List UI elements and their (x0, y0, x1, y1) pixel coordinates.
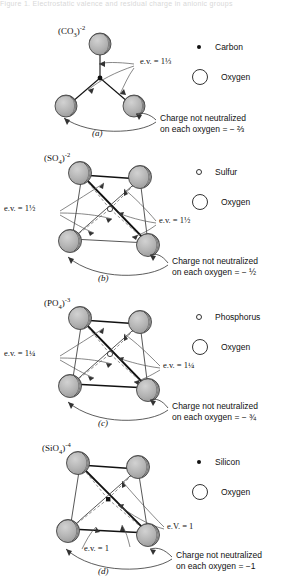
formula-b: (SO4)-2 (44, 151, 70, 165)
central-atom-sulfur (107, 206, 112, 211)
legend-label-oxygen-d: Oxygen (218, 487, 250, 497)
ev-leaders-c-left (60, 328, 112, 378)
formula-a: (CO3)-2 (58, 24, 85, 38)
oxygen-marker-icon (186, 69, 218, 85)
legend-label-carbon: Carbon (212, 42, 243, 52)
ev-leaders-b-left (60, 183, 112, 233)
callout-c-line1: Charge not neutralized (172, 401, 258, 411)
formula-d-sup: -4 (65, 441, 70, 448)
callout-arrowheads-c (68, 400, 156, 409)
legend-label-sulfur: Sulfur (212, 167, 237, 177)
legend-row-oxygen-b: Oxygen (186, 191, 250, 213)
carbon-marker-icon (186, 45, 212, 49)
legend-b: Sulfur Oxygen (186, 161, 250, 213)
legend-c: Phosphorus Oxygen (186, 306, 260, 358)
legend-row-sulfur: Sulfur (186, 161, 250, 183)
silicon-marker-icon (186, 460, 212, 464)
panel-label-c: (c) (98, 418, 108, 428)
ev-arrowheads-a (88, 61, 126, 95)
ev-leaders-b-right (118, 189, 156, 237)
ev-label-b-right: e.v. = 1½ (159, 215, 190, 225)
oxygen-marker-icon-b (186, 194, 218, 210)
ev-label-a-1: e.v. = 1⅓ (140, 56, 171, 66)
callout-d-line1: Charge not neutralized (176, 550, 262, 560)
callout-b: Charge not neutralized on each oxygen = … (172, 256, 258, 278)
legend-a: Carbon Oxygen (186, 36, 250, 88)
panel-c: (PO4)-3 e.v. = 1¼ e.v. = 1¼ Phosphorus O… (0, 284, 288, 429)
callout-a-line2: on each oxygen = − ⅔ (160, 124, 246, 135)
panel-label-a: (a) (92, 128, 103, 138)
formula-d-base: (SiO (42, 443, 59, 453)
sulfur-marker-icon (186, 169, 212, 176)
callout-arrows-d (66, 548, 172, 569)
legend-label-oxygen-c: Oxygen (218, 342, 250, 352)
formula-d: (SiO4)-4 (42, 441, 71, 455)
callout-d: Charge not neutralized on each oxygen = … (176, 550, 262, 572)
central-atom-phosphorus (107, 351, 112, 356)
legend-row-oxygen-c: Oxygen (186, 336, 260, 358)
panel-d: (SiO4)-4 e.V. = 1 e.v. = 1 Silicon Oxyge… (0, 429, 288, 574)
ev-label-d-right: e.V. = 1 (167, 521, 193, 531)
callout-c: Charge not neutralized on each oxygen = … (172, 401, 258, 423)
legend-label-silicon: Silicon (212, 457, 240, 467)
legend-d: Silicon Oxygen (186, 451, 250, 503)
legend-label-oxygen-b: Oxygen (218, 197, 250, 207)
legend-row-silicon: Silicon (186, 451, 250, 473)
oxygen-marker-icon-c (186, 339, 218, 355)
formula-a-base: (CO (58, 26, 74, 36)
panel-a: (CO3)-2 e.v. = 1⅓ Carbon Oxygen Charge n… (0, 14, 288, 139)
ev-label-b-left: e.v. = 1½ (4, 203, 35, 213)
legend-row-oxygen: Oxygen (186, 66, 250, 88)
panel-label-d: (d) (98, 566, 109, 576)
oxygen-marker-icon-d (186, 484, 218, 500)
ev-label-d-bottom: e.v. = 1 (84, 543, 109, 553)
legend-row-carbon: Carbon (186, 36, 250, 58)
legend-label-oxygen: Oxygen (218, 72, 250, 82)
callout-b-line2: on each oxygen = − ½ (172, 267, 258, 278)
central-atom-carbon (98, 76, 103, 81)
legend-row-phosphorus: Phosphorus (186, 306, 260, 328)
callout-c-line2: on each oxygen = − ¾ (172, 412, 258, 423)
panel-b: (SO4)-2 e.v. = 1½ e.v. = 1½ Sulfur Oxyge… (0, 139, 288, 284)
formula-a-sup: -2 (80, 24, 85, 31)
formula-c-sup: -3 (65, 296, 70, 303)
ev-leader-lines-a (88, 63, 134, 95)
formula-c-base: (PO (44, 298, 59, 308)
callout-arrowheads-d (66, 549, 156, 556)
callout-a-line1: Charge not neutralized (160, 113, 246, 123)
formula-b-base: (SO (44, 153, 59, 163)
ev-label-c-left: e.v. = 1¼ (4, 348, 35, 358)
formula-c: (PO4)-3 (44, 296, 70, 310)
cut-off-header-text: Figure 1. Electrostatic valence and resi… (0, 0, 288, 9)
callout-arrowheads-b (68, 255, 156, 264)
central-atom-silicon (106, 497, 110, 501)
callout-arrows-a (64, 113, 156, 131)
phosphorus-marker-icon (186, 314, 212, 321)
callout-b-line1: Charge not neutralized (172, 256, 258, 266)
callout-d-line2: on each oxygen = −1 (176, 561, 262, 572)
ev-label-c-right: e.v. = 1¼ (163, 360, 194, 370)
formula-b-sup: -2 (65, 151, 70, 158)
legend-label-phosphorus: Phosphorus (212, 312, 260, 322)
panel-label-b: (b) (98, 273, 109, 283)
legend-row-oxygen-d: Oxygen (186, 481, 250, 503)
ev-leaders-c-right (118, 334, 160, 382)
callout-a: Charge not neutralized on each oxygen = … (160, 113, 246, 135)
ev-arrowheads-b-right (118, 189, 138, 240)
